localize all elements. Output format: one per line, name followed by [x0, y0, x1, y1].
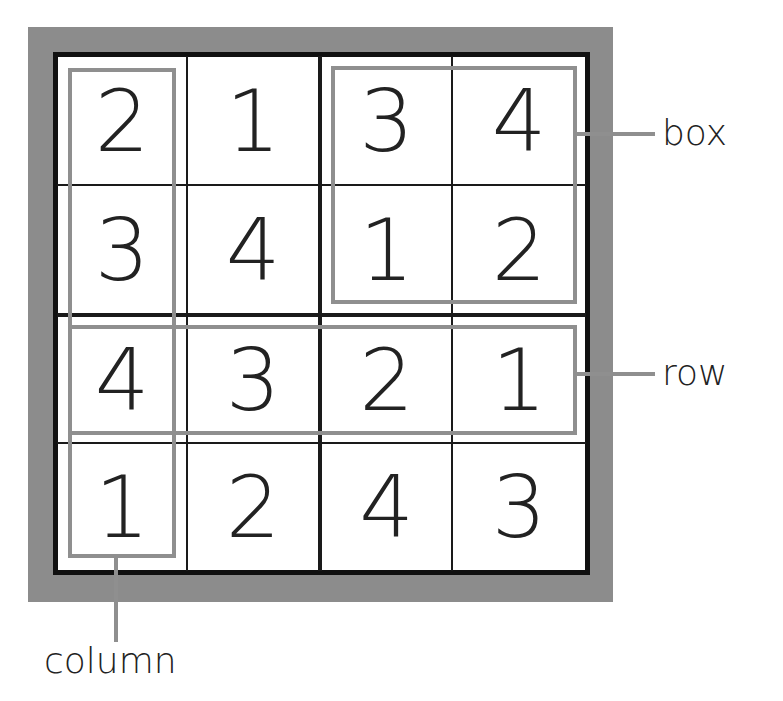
- row-highlight: [68, 325, 577, 435]
- cell-r4c2: 2: [188, 444, 318, 570]
- cell-r4c3: 4: [322, 444, 451, 570]
- box-callout-line: [576, 132, 655, 136]
- cell-r1c2: 1: [188, 57, 318, 184]
- box-highlight: [331, 66, 577, 304]
- column-label: column: [44, 640, 177, 681]
- column-highlight: [68, 68, 176, 558]
- column-callout-line: [114, 558, 118, 642]
- cell-r4c4: 3: [453, 444, 585, 570]
- box-label: box: [662, 112, 727, 153]
- row-callout-line: [576, 372, 655, 376]
- cell-r2c2: 4: [188, 186, 318, 313]
- row-label: row: [662, 352, 727, 393]
